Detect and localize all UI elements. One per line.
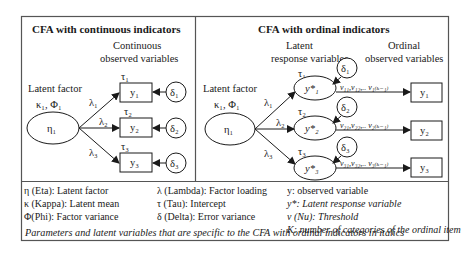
- right-lambda-3: λ₃: [264, 148, 273, 159]
- left-tau-1: τ₁: [121, 71, 129, 82]
- right-factor-symbol: η₁: [224, 124, 233, 135]
- left-panel: CFA with continuous indicators Continuou…: [27, 23, 186, 173]
- legend-eta: η (Eta): Latent factor: [24, 184, 119, 197]
- right-y3-label: y₃: [420, 162, 429, 173]
- right-observed-header-2: observed variables: [365, 53, 443, 64]
- legend-tau: τ (Tau): Intercept: [157, 197, 267, 210]
- legend-lambda: λ (Lambda): Factor loading: [157, 184, 267, 197]
- left-lambda-3: λ₃: [89, 147, 98, 158]
- right-ystar-1: y*₁: [304, 83, 319, 94]
- legend-ystar: y*: Latent response variable: [287, 197, 461, 210]
- left-indicator-2: τ₂ y₂ δ₂: [120, 106, 186, 138]
- left-y2-label: y₂: [130, 122, 139, 133]
- right-thresholds-1: ν₁₁,ν₁₂,.. ν₁₍ₖ₋₁₎: [340, 83, 388, 92]
- left-tau-3: τ₃: [121, 141, 129, 152]
- right-y2-label: y₂: [420, 125, 429, 136]
- right-factor-label: Latent factor: [203, 83, 257, 94]
- left-delta-2: δ₂: [170, 123, 179, 134]
- left-factor-symbol: η₁: [47, 123, 56, 134]
- right-thresholds-3: ν₃₁,ν₃₂,.. ν₃₍ₖ₋₁₎: [340, 159, 388, 168]
- left-indicator-1: τ₁ y₁ δ₁: [120, 71, 186, 102]
- right-observed-header-1: Ordinal: [388, 40, 420, 51]
- left-loading-arrow-3: [79, 128, 119, 163]
- left-indicator-3: τ₃ y₃ δ₃: [120, 141, 186, 173]
- left-tau-2: τ₂: [124, 106, 132, 117]
- right-lambda-1: λ₁: [264, 97, 273, 108]
- right-panel-title: CFA with ordinal indicators: [258, 23, 390, 35]
- right-delta-1: δ₁: [341, 63, 350, 74]
- right-ystar-2: y*₂: [304, 123, 319, 134]
- legend-phi: Φ(Phi): Factor variance: [24, 210, 119, 223]
- right-factor-params: κ₁, Φ₁: [214, 99, 240, 110]
- right-panel: CFA with ordinal indicators Latent respo…: [203, 23, 443, 180]
- left-y3-label: y₃: [130, 157, 139, 168]
- left-lambda-2: λ₂: [99, 116, 108, 127]
- left-observed-header-2: observed variables: [100, 53, 178, 64]
- legend-col-2: λ (Lambda): Factor loading τ (Tau): Inte…: [157, 184, 267, 223]
- left-lambda-1: λ₁: [89, 97, 98, 108]
- right-ystar-3: y*₃: [304, 163, 319, 174]
- left-panel-title: CFA with continuous indicators: [32, 23, 181, 35]
- right-latent-header-1: Latent: [286, 40, 313, 51]
- right-tau-2: τ₂: [298, 106, 306, 117]
- left-factor-params: κ₁, Φ₁: [36, 99, 62, 110]
- right-loading-arrow-3: [255, 129, 295, 164]
- legend-y: y: observed variable: [287, 184, 461, 197]
- left-observed-header-1: Continuous: [113, 40, 161, 51]
- right-thresholds-2: ν₂₁,ν₂₂,.. ν₂₍ₖ₋₁₎: [340, 121, 388, 130]
- legend-nu: ν (Nu): Threshold: [287, 210, 461, 223]
- right-indicator-2: τ₂ y*₂ δ₂ ν₂₁,ν₂₂,.. ν₂₍ₖ₋₁₎ y₂: [294, 97, 442, 140]
- left-factor-label: Latent factor: [28, 83, 82, 94]
- legend-col-1: η (Eta): Latent factor κ (Kappa): Latent…: [24, 184, 119, 223]
- left-y1-label: y₁: [130, 87, 139, 98]
- right-latent-header-2: response variables: [271, 53, 348, 64]
- right-lambda-2: λ₂: [276, 117, 285, 128]
- right-delta-3: δ₃: [341, 142, 350, 153]
- left-delta-1: δ₁: [170, 87, 179, 98]
- right-indicator-3: τ₃ y*₃ δ₃ ν₃₁,ν₃₂,.. ν₃₍ₖ₋₁₎ y₃: [294, 137, 442, 180]
- legend-kappa: κ (Kappa): Latent mean: [24, 197, 119, 210]
- right-y1-label: y₁: [420, 87, 429, 98]
- legend-footnote: Parameters and latent variables that are…: [25, 227, 404, 238]
- right-indicator-1: τ₁ y*₁ δ₁ ν₁₁,ν₁₂,.. ν₁₍ₖ₋₁₎ y₁: [294, 58, 442, 102]
- left-delta-3: δ₃: [170, 158, 179, 169]
- right-delta-2: δ₂: [341, 102, 350, 113]
- right-loading-arrow-1: [255, 92, 295, 129]
- legend-delta: δ (Delta): Error variance: [157, 210, 267, 223]
- right-tau-3: τ₃: [298, 146, 306, 157]
